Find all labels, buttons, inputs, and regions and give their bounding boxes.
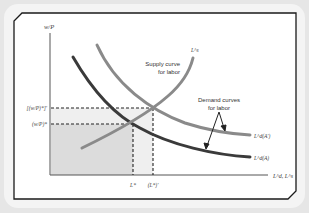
x-tick-l-star: L*	[129, 182, 136, 188]
supply-annotation-line2: for labor	[158, 69, 180, 75]
x-tick-l-star-prime: (L*)'	[148, 182, 159, 189]
y-tick-w-over-p-star: (w/P)*	[32, 121, 47, 128]
demand-annotation-line1: Demand curves	[198, 97, 240, 103]
demand-curve-A-label: L^d(A)	[253, 155, 269, 162]
supply-annotation-line1: Supply curve	[145, 61, 180, 67]
y-tick-w-over-p-star-prime: [(w/P)*]'	[27, 105, 48, 112]
x-axis-label: L^d, L^s	[272, 173, 294, 179]
shaded-area-dark	[51, 124, 133, 175]
demand-curve-A-prime-label: L^d(A')	[253, 133, 270, 140]
labor-market-diagram: w/P L^d, L^s [(w/P)*]' (w/P)* L* (L*)' L…	[0, 0, 309, 213]
supply-curve-label: L^s	[190, 47, 199, 53]
demand-annotation-line2: for labor	[208, 105, 230, 111]
y-axis-label: w/P	[44, 23, 54, 30]
